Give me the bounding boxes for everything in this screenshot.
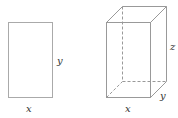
box-top-right-edge xyxy=(151,7,167,23)
rectangle-figure: x y xyxy=(9,23,64,115)
box-x-label: x xyxy=(125,103,131,114)
rect-x-label: x xyxy=(26,103,32,114)
rectangle xyxy=(9,23,53,98)
box-z-label: z xyxy=(169,41,176,52)
box-y-label: y xyxy=(159,90,166,101)
box-hidden-depth-edge xyxy=(107,82,123,98)
rect-y-label: y xyxy=(56,55,63,66)
box-front-face xyxy=(107,23,151,98)
box-top-left-edge xyxy=(107,7,123,23)
box-figure xyxy=(107,7,167,98)
diagram: x y x y z xyxy=(0,0,178,118)
